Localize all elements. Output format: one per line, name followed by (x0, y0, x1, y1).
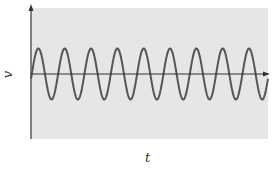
x-axis-label: t (145, 150, 150, 165)
y-axis-arrow-icon (29, 4, 34, 11)
y-axis-label: v (0, 71, 15, 78)
waveform-plot (0, 0, 277, 171)
